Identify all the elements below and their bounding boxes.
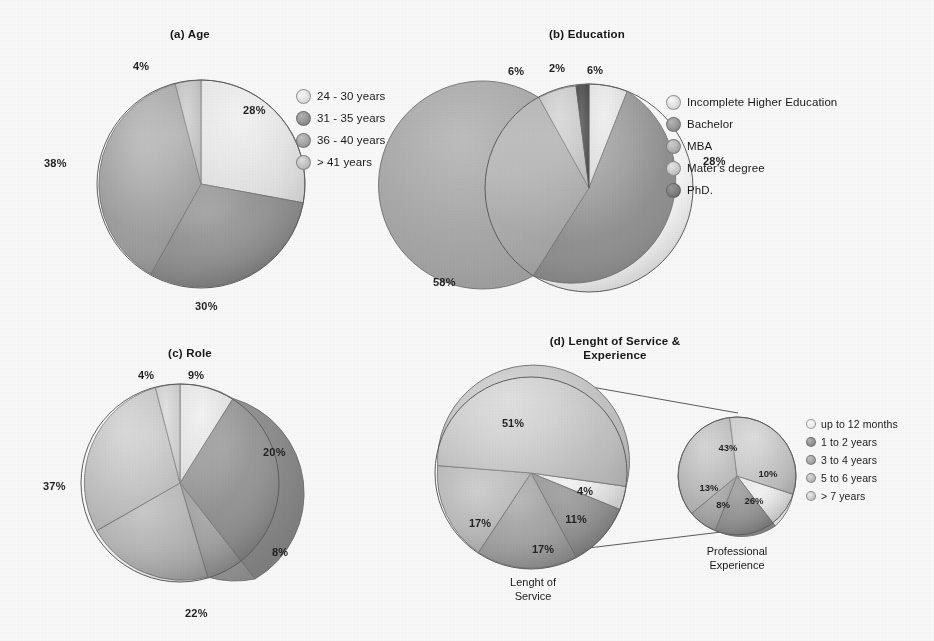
legend-bullet-icon: [806, 491, 816, 501]
panel-c-title: (c) Role: [130, 346, 250, 360]
pct-inner-e-13: 13%: [699, 482, 719, 493]
pie-age-svg: [96, 78, 306, 290]
pct-label-b-6a: 6%: [508, 65, 524, 77]
legend-bullet-icon: [666, 117, 681, 132]
pct-label-c-8: 8%: [272, 546, 288, 558]
legend-bullet-icon: [806, 437, 816, 447]
legend-item-over-41[interactable]: > 41 years: [296, 151, 385, 173]
figure-canvas: (a) Age: [0, 0, 934, 641]
pct-label-c-37: 37%: [43, 480, 66, 492]
legend-label: 1 to 2 years: [821, 436, 877, 448]
pie-professional-experience-svg: 43% 10% 26% 8% 13%: [676, 415, 798, 537]
legend-bullet-icon: [666, 139, 681, 154]
legend-label: 24 - 30 years: [317, 90, 385, 102]
panel-role: (c) Role: [0, 320, 400, 641]
legend-label: Incomplete Higher Education: [687, 96, 837, 108]
pct-label-b-58: 58%: [433, 276, 456, 288]
legend-label: PhD.: [687, 184, 713, 196]
legend-bullet-icon: [666, 95, 681, 110]
pie-education-shade: [485, 84, 693, 292]
legend-bullet-icon: [806, 419, 816, 429]
legend-item-mba[interactable]: MBA: [666, 135, 837, 157]
caption-professional-experience: Professional Experience: [677, 544, 797, 572]
pct-label-c-9: 9%: [188, 369, 204, 381]
pie-chart-professional-experience: 43% 10% 26% 8% 13%: [676, 415, 798, 537]
pct-label-a-38: 38%: [44, 157, 67, 169]
panel-d-title: (d) Lenght of Service & Experience: [505, 334, 725, 362]
legend-label: 5 to 6 years: [821, 472, 877, 484]
legend-bullet-icon: [806, 455, 816, 465]
pie-length-of-service-svg: 51% 4% 11% 17% 17%: [433, 375, 629, 571]
pct-label-b-6b: 6%: [587, 64, 603, 76]
legend-bullet-icon: [666, 161, 681, 176]
legend-education: Incomplete Higher Education Bachelor MBA…: [666, 91, 837, 201]
pie-education-svg: [484, 82, 694, 294]
legend-bullet-icon: [806, 473, 816, 483]
pie-chart-education: [484, 82, 694, 294]
legend-label: Mater's degree: [687, 162, 765, 174]
legend-label: Bachelor: [687, 118, 733, 130]
legend-item-bachelor[interactable]: Bachelor: [666, 113, 837, 135]
legend-label: up to 12 months: [821, 418, 898, 430]
legend-item-3-to-4-years[interactable]: 3 to 4 years: [806, 451, 898, 469]
legend-label: MBA: [687, 140, 712, 152]
pie-role-shade: [81, 384, 279, 582]
pct-inner-d-11: 11%: [565, 513, 587, 525]
pie-length-of-service-shade: [435, 377, 627, 569]
pct-label-a-4: 4%: [133, 60, 149, 72]
legend-bullet-icon: [296, 89, 311, 104]
legend-item-maters-degree[interactable]: Mater's degree: [666, 157, 837, 179]
legend-label: 3 to 4 years: [821, 454, 877, 466]
pct-inner-d-51: 51%: [502, 417, 524, 429]
legend-label: 36 - 40 years: [317, 134, 385, 146]
pct-label-a-30: 30%: [195, 300, 218, 312]
panel-length-of-service-experience: (d) Lenght of Service & Experience: [400, 320, 934, 641]
pct-inner-d-4: 4%: [577, 485, 593, 497]
legend-bullet-icon: [666, 183, 681, 198]
legend-age: 24 - 30 years 31 - 35 years 36 - 40 year…: [296, 85, 385, 173]
pie-chart-length-of-service: 51% 4% 11% 17% 17%: [433, 375, 629, 571]
pct-inner-e-43: 43%: [718, 442, 738, 453]
legend-item-incomplete-higher-education[interactable]: Incomplete Higher Education: [666, 91, 837, 113]
legend-bullet-icon: [296, 155, 311, 170]
legend-item-36-40[interactable]: 36 - 40 years: [296, 129, 385, 151]
pie-chart-age: [96, 78, 306, 290]
legend-item-1-to-2-years[interactable]: 1 to 2 years: [806, 433, 898, 451]
caption-length-of-service: Lenght of Service: [473, 575, 593, 603]
pct-inner-d-17a: 17%: [532, 543, 554, 555]
legend-label: 31 - 35 years: [317, 112, 385, 124]
pie-role-svg: [80, 382, 280, 584]
pct-label-b-2: 2%: [549, 62, 565, 74]
panel-a-title: (a) Age: [130, 27, 250, 41]
pie-professional-experience-shade: [678, 417, 796, 535]
legend-item-31-35[interactable]: 31 - 35 years: [296, 107, 385, 129]
pie-age-shade: [97, 80, 305, 288]
panel-education: (b) Education: [467, 0, 934, 320]
legend-bullet-icon: [296, 111, 311, 126]
pct-label-a-28: 28%: [243, 104, 266, 116]
legend-item-up-to-12-months[interactable]: up to 12 months: [806, 415, 898, 433]
pct-label-c-20: 20%: [263, 446, 286, 458]
legend-item-phd[interactable]: PhD.: [666, 179, 837, 201]
pct-inner-d-17b: 17%: [469, 517, 491, 529]
legend-item-5-to-6-years[interactable]: 5 to 6 years: [806, 469, 898, 487]
pie-chart-role: [80, 382, 280, 584]
legend-label: > 41 years: [317, 156, 372, 168]
pct-inner-e-26: 26%: [744, 495, 764, 506]
legend-label: > 7 years: [821, 490, 865, 502]
pct-inner-e-10: 10%: [758, 468, 778, 479]
pct-label-c-22: 22%: [185, 607, 208, 619]
legend-bullet-icon: [296, 133, 311, 148]
legend-item-24-30[interactable]: 24 - 30 years: [296, 85, 385, 107]
pct-label-c-4: 4%: [138, 369, 154, 381]
pct-inner-e-8: 8%: [716, 499, 730, 510]
panel-b-title: (b) Education: [507, 27, 667, 41]
legend-length-of-service: up to 12 months 1 to 2 years 3 to 4 year…: [806, 415, 898, 505]
legend-item-over-7-years[interactable]: > 7 years: [806, 487, 898, 505]
